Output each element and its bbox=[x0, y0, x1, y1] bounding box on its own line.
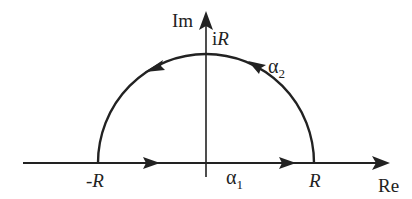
alpha2-subscript: 2 bbox=[278, 66, 285, 81]
alpha1-label: α1 bbox=[226, 166, 243, 192]
arc-arrow-right-icon bbox=[248, 61, 266, 74]
iR-var: R bbox=[216, 28, 229, 49]
contour-diagram: Im Re iR -R R α1 α2 bbox=[0, 0, 412, 199]
alpha2-label: α2 bbox=[268, 55, 285, 81]
iR-label: iR bbox=[212, 28, 229, 49]
imaginary-axis bbox=[199, 11, 213, 177]
alpha1-subscript: 1 bbox=[236, 177, 243, 192]
alpha1-symbol: α bbox=[226, 166, 237, 188]
neg-R-label: -R bbox=[86, 170, 104, 191]
real-axis-label: Re bbox=[378, 175, 399, 196]
pos-R-label: R bbox=[308, 170, 321, 191]
alpha2-symbol: α bbox=[268, 55, 279, 77]
arc-arrow-left-icon bbox=[145, 60, 165, 72]
imag-axis-label: Im bbox=[172, 10, 193, 31]
